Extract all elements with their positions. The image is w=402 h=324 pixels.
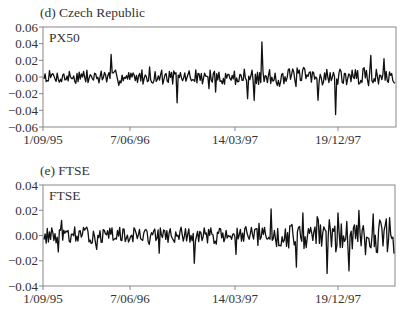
y-axis: 0.040.020.00−0.02−0.04 [8, 178, 43, 294]
panel-title: (d) Czech Republic [40, 5, 145, 20]
y-tick-label: −0.02 [8, 253, 38, 268]
series-label: FTSE [49, 188, 81, 203]
chart-figure: (d) Czech Republic PX50 0.060.040.020.00… [0, 0, 402, 324]
x-tick-label: 7/06/96 [110, 291, 150, 306]
y-tick-label: 0.00 [15, 228, 38, 243]
y-tick-label: 0.06 [15, 20, 38, 35]
y-tick-label: 0.02 [15, 203, 38, 218]
y-tick-label: 0.04 [15, 36, 38, 51]
x-tick-label: 14/03/97 [212, 291, 259, 306]
x-tick-label: 19/12/97 [315, 132, 362, 147]
x-tick-label: 1/09/95 [23, 291, 63, 306]
y-tick-label: 0.04 [15, 178, 38, 193]
x-tick-label: 14/03/97 [212, 132, 259, 147]
x-tick-label: 19/12/97 [315, 291, 362, 306]
y-tick-label: 0.00 [15, 70, 38, 85]
series-line-ftse [44, 209, 394, 273]
y-axis: 0.060.040.020.00−0.02−0.04−0.06 [8, 20, 43, 135]
series-line-px50 [44, 42, 395, 115]
y-tick-label: −0.02 [8, 86, 38, 101]
x-tick-label: 7/06/96 [110, 132, 150, 147]
panel-ftse: (e) FTSE FTSE 0.040.020.00−0.02−0.04 1/0… [8, 163, 395, 306]
y-tick-label: 0.02 [15, 53, 38, 68]
panel-czech-republic: (d) Czech Republic PX50 0.060.040.020.00… [8, 5, 396, 147]
y-tick-label: −0.04 [8, 103, 39, 118]
panel-title: (e) FTSE [40, 163, 90, 178]
x-axis: 1/09/957/06/9614/03/9719/12/97 [23, 127, 361, 147]
x-axis: 1/09/957/06/9614/03/9719/12/97 [23, 286, 361, 306]
series-label: PX50 [49, 30, 80, 45]
x-tick-label: 1/09/95 [23, 132, 63, 147]
